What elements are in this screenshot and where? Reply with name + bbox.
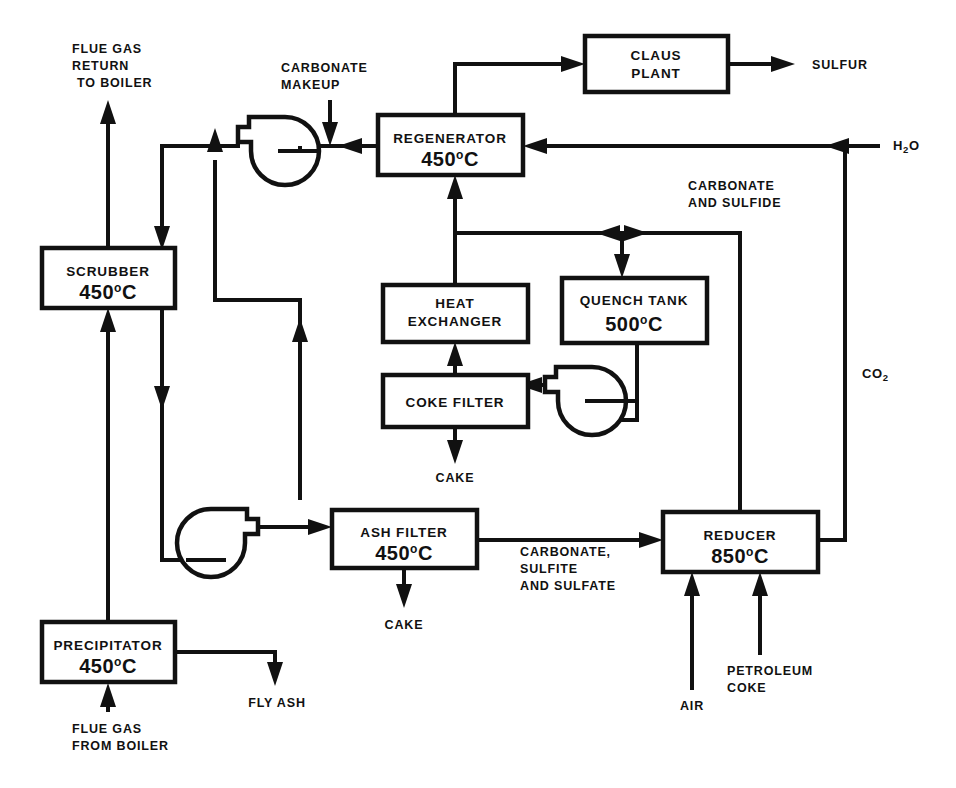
label-flue-gas-return-line3: TO BOILER xyxy=(77,76,152,90)
arrowhead-header-flow-left xyxy=(596,225,620,241)
arrowhead-sulfur xyxy=(771,56,795,72)
stream-riser-to-pump-header xyxy=(215,160,300,500)
label-flue-gas-from-boiler-line2: FROM BOILER xyxy=(72,739,169,753)
unit-precipitator-temperature: 450oC xyxy=(79,655,137,677)
arrowhead-coke-filter-to-heat-exchanger xyxy=(447,342,463,366)
unit-quench-tank[interactable]: QUENCH TANK 500oC xyxy=(562,278,707,343)
unit-coke-filter[interactable]: COKE FILTER xyxy=(383,375,528,427)
label-carbonate-sulfite-sulfate-line3: AND SULFATE xyxy=(520,579,616,593)
unit-quench-tank-label: QUENCH TANK xyxy=(580,293,689,308)
label-petroleum-coke-line2: COKE xyxy=(727,681,767,695)
arrowhead-carbonate-makeup xyxy=(322,122,338,146)
process-flow-diagram: SCRUBBER 450oC PRECIPITATOR 450oC REGENE… xyxy=(0,0,956,788)
arrowhead-regenerator-to-claus xyxy=(561,56,585,72)
unit-ash-filter[interactable]: ASH FILTER 450oC xyxy=(332,510,477,568)
arrowhead-riser-midpoint xyxy=(292,318,308,342)
unit-precipitator-label: PRECIPITATOR xyxy=(53,638,162,653)
unit-regenerator-temperature: 450oC xyxy=(421,148,479,170)
pump-coke-filter-feed xyxy=(545,367,637,435)
arrowhead-scrubber-bottom-outlet xyxy=(154,386,170,410)
label-coke-filter-cake: CAKE xyxy=(436,471,475,485)
arrowhead-header-from-reducer xyxy=(624,225,648,241)
unit-claus-plant-label-line1: CLAUS xyxy=(631,48,682,63)
unit-coke-filter-label: COKE FILTER xyxy=(406,395,505,410)
label-fly-ash: FLY ASH xyxy=(248,696,306,710)
arrowhead-pump-discharge-to-regenerator xyxy=(338,138,362,154)
arrowhead-flue-gas-from-boiler xyxy=(100,683,116,707)
label-carbonate-sulfite-sulfate-line1: CARBONATE, xyxy=(520,545,611,559)
unit-regenerator-label: REGENERATOR xyxy=(393,131,507,146)
stream-recycle-to-scrubber xyxy=(162,146,240,240)
unit-quench-tank-temperature: 500oC xyxy=(605,313,663,335)
unit-ash-filter-label: ASH FILTER xyxy=(360,525,448,540)
label-flue-gas-from-boiler-line1: FLUE GAS xyxy=(72,722,142,736)
label-carbonate-and-sulfide-line2: AND SULFIDE xyxy=(688,196,781,210)
arrowhead-riser-to-pump-header xyxy=(207,128,223,152)
arrowhead-coke-filter-cake xyxy=(447,440,463,464)
unit-precipitator[interactable]: PRECIPITATOR 450oC xyxy=(42,622,175,682)
unit-scrubber[interactable]: SCRUBBER 450oC xyxy=(42,248,175,308)
label-petroleum-coke-line1: PETROLEUM xyxy=(727,664,813,678)
label-carbonate-makeup-line2: MAKEUP xyxy=(281,78,340,92)
unit-heat-exchanger-label-line2: EXCHANGER xyxy=(408,314,502,329)
label-sulfur: SULFUR xyxy=(812,58,868,72)
pump-regenerator-outlet xyxy=(238,117,319,185)
label-carbonate-and-sulfide-line1: CARBONATE xyxy=(688,179,775,193)
stream-co2-riser xyxy=(818,146,845,540)
unit-scrubber-temperature: 450oC xyxy=(79,281,137,303)
arrowhead-header-to-quench-tank xyxy=(614,254,630,278)
arrowhead-precipitator-to-scrubber xyxy=(100,308,116,332)
label-carbonate-sulfite-sulfate-line2: SULFITE xyxy=(520,562,578,576)
arrowhead-pump-to-ash-filter xyxy=(308,519,332,535)
arrowhead-ash-filter-cake xyxy=(396,584,412,608)
unit-claus-plant-box[interactable] xyxy=(585,36,728,92)
pump-ash-filter-feed xyxy=(177,509,258,577)
unit-heat-exchanger[interactable]: HEAT EXCHANGER xyxy=(383,285,528,342)
arrowhead-flue-gas-return xyxy=(100,100,116,124)
arrowhead-ash-filter-to-reducer xyxy=(639,532,663,548)
arrowhead-co2-into-regenerator xyxy=(523,138,547,154)
label-flue-gas-return-line2: RETURN xyxy=(72,59,129,73)
unit-reducer-temperature: 850oC xyxy=(711,545,769,567)
label-carbonate-makeup-line1: CARBONATE xyxy=(281,61,368,75)
unit-reducer[interactable]: REDUCER 850oC xyxy=(663,512,818,572)
arrowhead-fly-ash xyxy=(267,662,283,686)
arrowhead-carbonate-sulfide-to-regenerator xyxy=(447,175,463,199)
label-water: H2O xyxy=(893,138,920,155)
unit-claus-plant[interactable]: CLAUS PLANT xyxy=(585,36,728,92)
unit-reducer-label: REDUCER xyxy=(703,528,776,543)
flowsheet-canvas: SCRUBBER 450oC PRECIPITATOR 450oC REGENE… xyxy=(0,0,956,788)
arrowhead-petroleum-coke xyxy=(752,572,768,596)
stream-regenerator-to-claus xyxy=(455,64,565,115)
unit-ash-filter-temperature: 450oC xyxy=(375,542,433,564)
unit-scrubber-label: SCRUBBER xyxy=(66,264,150,279)
unit-claus-plant-label-line2: PLANT xyxy=(631,66,681,81)
label-ash-filter-cake: CAKE xyxy=(385,618,424,632)
unit-heat-exchanger-label-line1: HEAT xyxy=(435,296,474,311)
arrowhead-air xyxy=(684,572,700,596)
label-air: AIR xyxy=(680,699,704,713)
stream-fly-ash xyxy=(175,652,275,672)
blower-volute-icon-3 xyxy=(177,509,258,577)
label-flue-gas-return-line1: FLUE GAS xyxy=(72,42,142,56)
label-carbon-dioxide: CO2 xyxy=(862,366,889,383)
unit-regenerator[interactable]: REGENERATOR 450oC xyxy=(378,115,523,175)
